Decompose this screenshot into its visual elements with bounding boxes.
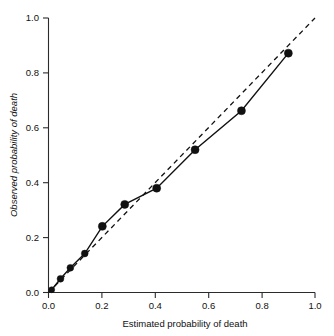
y-axis-tick-labels: 0.0 0.2 0.4 0.6 0.8 1.0	[26, 12, 39, 298]
x-tick-label-2: 0.4	[149, 300, 162, 311]
data-point	[191, 146, 199, 154]
x-tick-label-5: 1.0	[308, 300, 321, 311]
x-axis-tick-labels: 0.0 0.2 0.4 0.6 0.8 1.0	[42, 300, 322, 311]
x-axis-title: Estimated probability of death	[122, 318, 247, 329]
data-point	[67, 264, 74, 271]
x-tick-label-3: 0.6	[202, 300, 215, 311]
y-tick-label-4: 0.8	[26, 67, 39, 78]
y-tick-label-5: 1.0	[26, 12, 39, 23]
y-axis-title: Observed probability of death	[8, 93, 19, 217]
data-point	[81, 250, 88, 257]
data-point-markers	[49, 49, 293, 293]
calibration-plot-figure: 0.0 0.2 0.4 0.6 0.8 1.0 0.0 0.2 0.4 0.6 …	[0, 0, 334, 336]
y-tick-label-0: 0.0	[26, 287, 39, 298]
x-tick-label-0: 0.0	[42, 300, 55, 311]
data-point	[237, 107, 245, 115]
data-point	[49, 287, 55, 293]
data-point	[98, 222, 106, 230]
data-point	[153, 184, 161, 192]
x-axis-ticks	[49, 293, 316, 299]
reference-diagonal-line	[49, 18, 316, 293]
x-tick-label-4: 0.8	[255, 300, 268, 311]
data-point	[121, 200, 129, 208]
y-tick-label-2: 0.4	[26, 177, 39, 188]
x-tick-label-1: 0.2	[95, 300, 108, 311]
y-tick-label-3: 0.6	[26, 122, 39, 133]
y-tick-label-1: 0.2	[26, 232, 39, 243]
data-point	[284, 49, 292, 57]
y-axis-ticks	[43, 18, 49, 293]
chart-canvas: 0.0 0.2 0.4 0.6 0.8 1.0 0.0 0.2 0.4 0.6 …	[0, 0, 334, 336]
data-point	[57, 275, 64, 282]
